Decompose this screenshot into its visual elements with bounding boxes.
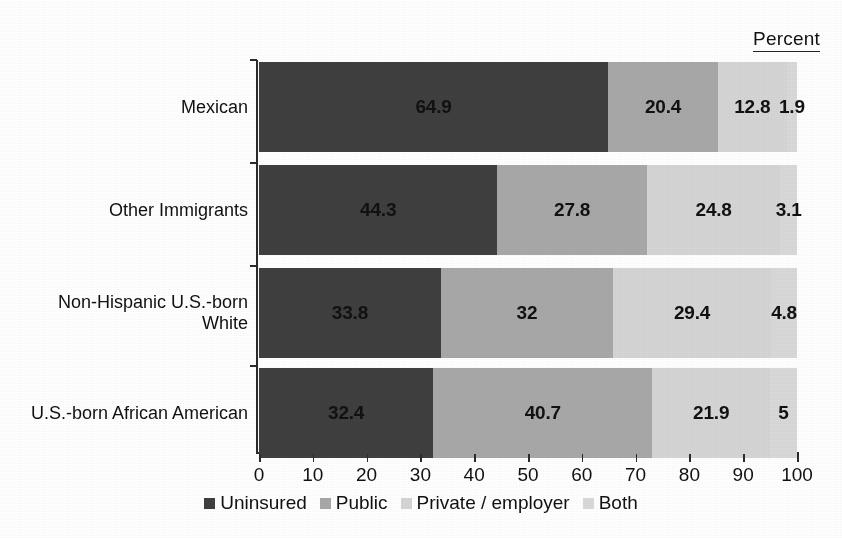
category-label: Other Immigrants <box>0 200 248 221</box>
x-axis-tick-label: 60 <box>571 463 592 486</box>
legend-item[interactable]: Public <box>320 492 388 514</box>
x-axis-tick-label: 80 <box>679 463 700 486</box>
bar-value-label: 24.8 <box>696 199 732 221</box>
y-axis-tick <box>250 59 257 61</box>
legend-item[interactable]: Both <box>583 492 638 514</box>
bar-value-label: 12.8 <box>734 96 770 118</box>
x-axis-tick <box>474 454 476 462</box>
bar-value-label: 27.8 <box>554 199 590 221</box>
x-axis-tick-label: 40 <box>464 463 485 486</box>
percent-axis-title: Percent <box>753 28 820 52</box>
x-axis-tick-label: 100 <box>781 463 813 486</box>
bar-value-label: 29.4 <box>674 302 710 324</box>
bar-value-label: 21.9 <box>693 402 729 424</box>
bar-row: 64.920.412.81.9 <box>259 62 797 152</box>
legend-item[interactable]: Uninsured <box>204 492 307 514</box>
bar-value-label: 64.9 <box>415 96 451 118</box>
x-axis-tick-label: 10 <box>302 463 323 486</box>
x-axis-tick <box>582 454 584 462</box>
legend-label: Private / employer <box>417 492 570 514</box>
y-axis-tick <box>250 162 257 164</box>
bar-row: 44.327.824.83.1 <box>259 165 797 255</box>
chart-legend: UninsuredPublicPrivate / employerBoth <box>0 492 842 514</box>
bar-row: 32.440.721.95 <box>259 368 797 458</box>
bar-value-label: 5 <box>778 402 788 424</box>
x-axis-tick-label: 90 <box>733 463 754 486</box>
bar-value-label: 40.7 <box>525 402 561 424</box>
stacked-bar-chart: Percent MexicanOther ImmigrantsNon-Hispa… <box>0 0 842 538</box>
bar-value-label: 32.4 <box>328 402 364 424</box>
x-axis-tick <box>797 454 799 462</box>
x-axis-tick <box>689 454 691 462</box>
legend-item[interactable]: Private / employer <box>401 492 570 514</box>
x-axis-tick-label: 50 <box>517 463 538 486</box>
bar-value-label: 3.1 <box>776 199 802 221</box>
x-axis-tick-label: 70 <box>625 463 646 486</box>
legend-label: Public <box>336 492 388 514</box>
legend-swatch-icon <box>401 498 412 509</box>
x-axis-tick-label: 20 <box>356 463 377 486</box>
bar-value-label: 20.4 <box>645 96 681 118</box>
y-axis-tick <box>250 265 257 267</box>
legend-swatch-icon <box>204 498 215 509</box>
bar-value-label: 32 <box>517 302 538 324</box>
x-axis-tick <box>367 454 369 462</box>
bar-value-label: 33.8 <box>332 302 368 324</box>
x-axis-tick <box>259 454 261 462</box>
x-axis-tick <box>636 454 638 462</box>
x-axis-tick-label: 0 <box>254 463 265 486</box>
bar-value-label: 4.8 <box>771 302 797 324</box>
x-axis-tick <box>743 454 745 462</box>
bar-row: 33.83229.44.8 <box>259 268 797 358</box>
y-axis-tick <box>250 365 257 367</box>
x-axis-tick-label: 30 <box>410 463 431 486</box>
legend-label: Both <box>599 492 638 514</box>
category-label: U.S.-born African American <box>0 403 248 424</box>
x-axis-tick <box>313 454 315 462</box>
legend-swatch-icon <box>583 498 594 509</box>
bar-value-label: 44.3 <box>360 199 396 221</box>
plot-area: 64.920.412.81.944.327.824.83.133.83229.4… <box>259 62 797 452</box>
category-label: Mexican <box>0 97 248 118</box>
legend-swatch-icon <box>320 498 331 509</box>
bar-value-label: 1.9 <box>779 96 805 118</box>
legend-label: Uninsured <box>220 492 307 514</box>
category-label: Non-Hispanic U.S.-born White <box>0 292 248 334</box>
x-axis-tick <box>528 454 530 462</box>
x-axis-tick <box>420 454 422 462</box>
y-axis-line <box>256 60 258 454</box>
